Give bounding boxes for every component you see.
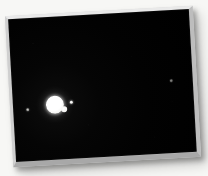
moon-right-inner-body [70, 101, 73, 104]
photo-stage [0, 0, 208, 176]
moon-far-right-body [170, 79, 173, 82]
night-sky-field [8, 9, 197, 162]
celestial-bodies-layer [8, 9, 189, 19]
photo-frame [5, 6, 201, 167]
moon-left-outer-body [26, 108, 29, 111]
sensor-noise-overlay [8, 9, 197, 162]
transit-notch-body [61, 106, 67, 112]
print-inner-edge [8, 9, 197, 162]
